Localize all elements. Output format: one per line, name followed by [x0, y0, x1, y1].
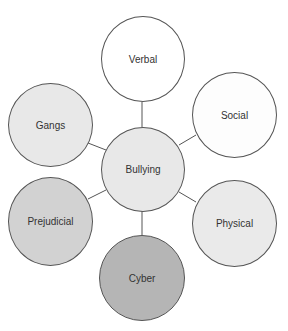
- node-social: Social: [192, 72, 277, 158]
- node-label: Prejudicial: [27, 216, 73, 227]
- node-center-bullying: Bullying: [101, 127, 185, 212]
- node-label: Social: [221, 110, 248, 121]
- node-label: Gangs: [36, 120, 65, 131]
- node-verbal: Verbal: [101, 16, 185, 102]
- node-prejudicial: Prejudicial: [8, 177, 93, 266]
- center-label: Bullying: [125, 164, 160, 175]
- node-label: Cyber: [129, 273, 156, 284]
- node-label: Physical: [216, 218, 253, 229]
- node-label: Verbal: [129, 54, 157, 65]
- node-physical: Physical: [192, 180, 277, 267]
- node-cyber: Cyber: [99, 235, 185, 321]
- node-gangs: Gangs: [8, 83, 93, 167]
